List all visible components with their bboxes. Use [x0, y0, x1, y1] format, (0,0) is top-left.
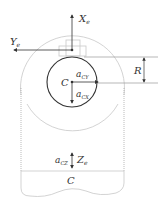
x-axis-label: Xe [78, 13, 90, 25]
origin-point [71, 49, 74, 52]
diagram-canvas: Xe Ye R C aCY aCX aCZ Ze C [0, 0, 162, 208]
center-label-bottom: C [67, 175, 75, 186]
center-label-top: C [61, 77, 69, 88]
accel-cz-label: aCZ [55, 155, 68, 166]
y-axis-label: Ye [10, 36, 21, 48]
z-axis-label: Ze [76, 154, 88, 166]
kinematics-diagram: Xe Ye R C aCY aCX aCZ Ze C [0, 0, 162, 208]
radius-label: R [133, 65, 142, 76]
accel-cy-label: aCY [76, 69, 89, 80]
accel-cx-label: aCX [76, 89, 89, 100]
contact-block [59, 40, 86, 56]
